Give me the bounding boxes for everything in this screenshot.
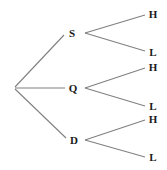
edge-d-to-h bbox=[85, 120, 145, 140]
edge-d-to-l bbox=[85, 140, 145, 157]
edge-s-to-l bbox=[85, 33, 145, 51]
leaf-label-q-l: L bbox=[149, 101, 156, 112]
node-label-d: D bbox=[70, 135, 78, 146]
edge-s-to-h bbox=[85, 15, 145, 33]
leaf-label-d-h: H bbox=[149, 114, 158, 125]
edge-group-d bbox=[85, 120, 145, 157]
edge-root-to-d bbox=[15, 89, 66, 138]
node-label-q: Q bbox=[69, 83, 78, 94]
leaf-label-s-l: L bbox=[149, 47, 156, 58]
tree-edges-svg bbox=[0, 0, 167, 170]
probability-tree-diagram: S Q D H L H L H L bbox=[0, 0, 167, 170]
leaf-label-d-l: L bbox=[149, 152, 156, 163]
leaf-label-s-h: H bbox=[149, 9, 158, 20]
edge-q-to-l bbox=[85, 88, 145, 106]
edge-q-to-h bbox=[85, 68, 145, 88]
edge-group-s bbox=[85, 15, 145, 51]
edge-group-root bbox=[15, 35, 66, 138]
edge-group-q bbox=[85, 68, 145, 106]
node-label-s: S bbox=[69, 28, 75, 39]
leaf-label-q-h: H bbox=[149, 62, 158, 73]
edge-root-to-s bbox=[15, 35, 64, 87]
